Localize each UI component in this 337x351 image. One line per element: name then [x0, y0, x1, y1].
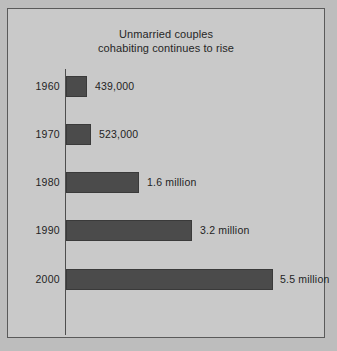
- category-label-1960: 1960: [8, 73, 60, 99]
- category-label-1990: 1990: [8, 217, 60, 243]
- category-label-1980: 1980: [8, 169, 60, 195]
- bar-row: 1960 439,000: [8, 73, 326, 99]
- value-label-1970: 523,000: [99, 121, 138, 147]
- bar-1990: [66, 220, 192, 241]
- value-label-1980: 1.6 million: [147, 169, 196, 195]
- bar-1960: [66, 76, 87, 97]
- bar-row: 1970 523,000: [8, 121, 326, 147]
- value-label-1960: 439,000: [95, 73, 134, 99]
- bar-row: 2000 5.5 million: [8, 266, 326, 292]
- plot-area: 1960 439,000 1970 523,000 1980 1.6 milli…: [8, 9, 326, 339]
- bar-1970: [66, 124, 91, 145]
- bar-2000: [66, 269, 273, 290]
- value-label-1990: 3.2 million: [200, 217, 249, 243]
- value-label-2000: 5.5 million: [280, 266, 329, 292]
- bar-row: 1990 3.2 million: [8, 217, 326, 243]
- category-label-1970: 1970: [8, 121, 60, 147]
- chart-image: Unmarried couples cohabiting continues t…: [0, 0, 337, 351]
- bar-1980: [66, 172, 139, 193]
- chart-frame: Unmarried couples cohabiting continues t…: [7, 8, 325, 338]
- value-axis-line: [65, 69, 66, 335]
- bar-row: 1980 1.6 million: [8, 169, 326, 195]
- category-label-2000: 2000: [8, 266, 60, 292]
